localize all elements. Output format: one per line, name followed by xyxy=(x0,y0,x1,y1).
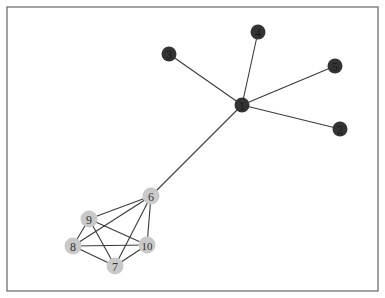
node-label: 7 xyxy=(112,260,118,274)
node-label: 6 xyxy=(148,190,154,204)
node-label: 2 xyxy=(337,123,343,137)
node-4: 4 xyxy=(251,25,266,40)
node-7: 7 xyxy=(107,258,124,275)
node-9: 9 xyxy=(81,211,98,228)
graph-canvas: 12345678910 xyxy=(0,0,385,298)
node-3: 3 xyxy=(162,47,177,62)
node-6: 6 xyxy=(143,188,160,205)
node-label: 5 xyxy=(332,60,338,74)
node-label: 1 xyxy=(239,99,245,113)
plot-frame xyxy=(7,7,378,291)
node-5: 5 xyxy=(328,59,343,74)
node-label: 10 xyxy=(142,240,154,252)
node-1: 1 xyxy=(235,98,250,113)
node-10: 10 xyxy=(139,237,156,254)
node-2: 2 xyxy=(333,122,348,137)
node-label: 3 xyxy=(166,48,172,62)
node-8: 8 xyxy=(65,238,82,255)
node-label: 9 xyxy=(86,213,92,227)
node-label: 4 xyxy=(255,26,261,40)
node-label: 8 xyxy=(70,240,76,254)
